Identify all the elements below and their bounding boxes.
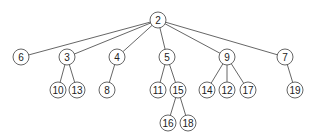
tree-edges	[21, 20, 295, 123]
tree-node-7: 7	[277, 49, 293, 65]
tree-node-16: 16	[160, 115, 176, 131]
node-label: 14	[201, 85, 213, 96]
node-label: 18	[182, 118, 194, 129]
node-label: 9	[224, 52, 230, 63]
node-label: 11	[153, 85, 164, 96]
tree-node-13: 13	[69, 82, 85, 98]
node-label: 13	[71, 85, 83, 96]
tree-node-14: 14	[199, 82, 215, 98]
tree-node-15: 15	[170, 82, 186, 98]
node-label: 3	[64, 52, 70, 63]
node-label: 16	[162, 118, 174, 129]
tree-node-2: 2	[150, 12, 166, 28]
tree-node-10: 10	[50, 82, 66, 98]
node-label: 17	[242, 85, 254, 96]
node-label: 4	[114, 52, 120, 63]
tree-node-6: 6	[13, 49, 29, 65]
node-label: 19	[289, 85, 301, 96]
node-label: 7	[282, 52, 288, 63]
tree-node-3: 3	[59, 49, 75, 65]
tree-node-5: 5	[159, 49, 175, 65]
tree-diagram: 2634597101381115141217191618	[0, 0, 315, 135]
node-label: 6	[18, 52, 24, 63]
tree-nodes: 2634597101381115141217191618	[13, 12, 303, 131]
tree-node-8: 8	[99, 82, 115, 98]
node-label: 12	[221, 85, 233, 96]
tree-node-19: 19	[287, 82, 303, 98]
node-label: 8	[104, 85, 110, 96]
tree-node-9: 9	[219, 49, 235, 65]
node-label: 10	[52, 85, 64, 96]
tree-node-11: 11	[150, 82, 166, 98]
tree-node-17: 17	[240, 82, 256, 98]
tree-node-4: 4	[109, 49, 125, 65]
node-label: 2	[155, 15, 161, 26]
tree-node-18: 18	[180, 115, 196, 131]
node-label: 5	[164, 52, 170, 63]
tree-node-12: 12	[219, 82, 235, 98]
node-label: 15	[172, 85, 184, 96]
